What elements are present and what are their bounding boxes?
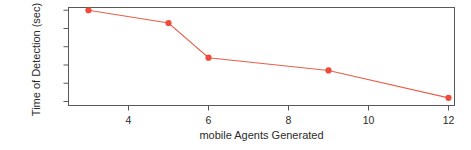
plot-area <box>0 0 471 150</box>
data-point <box>85 7 91 13</box>
x-axis-ticks <box>129 106 449 111</box>
data-series-markers <box>85 7 451 101</box>
data-series-line <box>89 10 449 98</box>
y-axis-ticks <box>64 10 69 101</box>
data-point <box>445 95 451 101</box>
data-point <box>205 55 211 61</box>
data-point <box>165 20 171 26</box>
chart-figure: Time of Detection (sec) mobile Agents Ge… <box>0 0 471 150</box>
data-point <box>325 67 331 73</box>
plot-frame <box>69 8 455 106</box>
